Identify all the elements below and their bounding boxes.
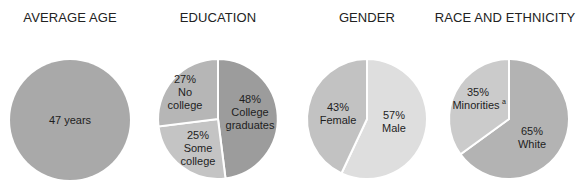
label-no-pct: 27%	[174, 73, 196, 85]
label-no-1: No	[178, 86, 192, 98]
label-some-1: Some	[184, 142, 213, 154]
label-min: Minorities	[452, 99, 500, 111]
label-female: Female	[320, 114, 357, 126]
label-some-pct: 25%	[187, 129, 209, 141]
label-male-pct: 57%	[383, 109, 405, 121]
label-no-2: college	[168, 99, 203, 111]
label-grad-2: graduates	[226, 119, 275, 131]
pie-charts: 47 years 48% College graduates 25% Some …	[0, 0, 579, 191]
label-min-pct: 35%	[467, 86, 489, 98]
label-male: Male	[382, 122, 406, 134]
pie-education: 48% College graduates 25% Some college 2…	[158, 59, 278, 179]
label-white: White	[518, 138, 546, 150]
label-average-age: 47 years	[49, 114, 92, 126]
label-white-pct: 65%	[521, 125, 543, 137]
label-female-pct: 43%	[327, 101, 349, 113]
pie-race-ethnicity: 65% White 35% Minorities a	[449, 59, 569, 179]
footnote-marker: a	[502, 98, 506, 105]
label-grad-pct: 48%	[239, 93, 261, 105]
label-some-2: college	[181, 155, 216, 167]
label-grad-1: College	[231, 106, 268, 118]
pie-gender: 57% Male 43% Female	[307, 59, 427, 179]
pie-average-age: 47 years	[10, 60, 130, 180]
